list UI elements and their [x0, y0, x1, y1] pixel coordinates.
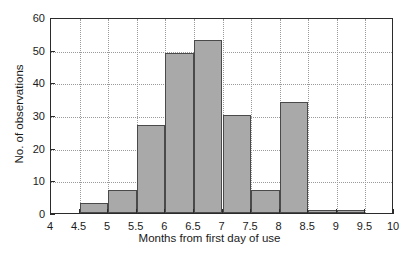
x-tick-mark-9	[336, 209, 337, 214]
y-tick-label-60: 60	[33, 13, 45, 24]
y-tick-mark-60	[50, 18, 55, 19]
y-tick-label-40: 40	[33, 78, 45, 89]
x-tick-label-6-5: 6.5	[185, 221, 200, 232]
x-tick-mark-4	[50, 209, 51, 214]
y-tick-mark-0	[50, 214, 55, 215]
x-tick-label-5-5: 5.5	[128, 221, 143, 232]
x-tick-label-7: 7	[218, 221, 224, 232]
y-tick-label-30: 30	[33, 111, 45, 122]
y-tick-mark-50	[50, 51, 55, 52]
x-tick-mark-8	[279, 209, 280, 214]
x-tick-label-5: 5	[104, 221, 110, 232]
bar-6.5-7	[194, 40, 223, 213]
x-tick-mark-8-5	[307, 209, 308, 214]
y-tick-label-20: 20	[33, 144, 45, 155]
y-tick-label-10: 10	[33, 176, 45, 187]
x-tick-mark-10	[393, 209, 394, 214]
bar-5.5-6	[137, 125, 166, 213]
x-tick-label-4: 4	[47, 221, 53, 232]
y-tick-label-50: 50	[33, 46, 45, 57]
x-tick-label-10: 10	[387, 221, 399, 232]
x-tick-mark-7-5	[250, 209, 251, 214]
x-tick-label-9-5: 9.5	[357, 221, 372, 232]
y-tick-label-0: 0	[39, 209, 45, 220]
x-tick-mark-4-5	[79, 209, 80, 214]
x-tick-label-4-5: 4.5	[71, 221, 86, 232]
bar-9-9.5	[337, 210, 366, 213]
x-axis-title: Months from first day of use	[0, 232, 419, 244]
x-tick-mark-6	[164, 209, 165, 214]
bar-8.5-9	[308, 210, 337, 213]
bar-6-6.5	[165, 53, 194, 213]
x-tick-mark-9-5	[364, 209, 365, 214]
y-tick-mark-20	[50, 149, 55, 150]
bar-4.5-5	[80, 203, 109, 213]
x-tick-label-6: 6	[161, 221, 167, 232]
y-tick-mark-10	[50, 181, 55, 182]
bar-7-7.5	[223, 115, 252, 213]
bar-7.5-8	[251, 190, 280, 213]
x-tick-mark-5-5	[136, 209, 137, 214]
y-tick-mark-30	[50, 116, 55, 117]
x-tick-label-8-5: 8.5	[300, 221, 315, 232]
y-axis-title: No. of observations	[13, 39, 25, 189]
x-tick-label-9: 9	[333, 221, 339, 232]
x-tick-label-8: 8	[276, 221, 282, 232]
histogram-chart: 0102030405060 44.555.566.577.588.599.510…	[0, 0, 419, 253]
x-tick-mark-6-5	[193, 209, 194, 214]
y-tick-mark-40	[50, 83, 55, 84]
x-tick-mark-5	[107, 209, 108, 214]
bar-series	[51, 19, 392, 213]
x-tick-mark-7	[222, 209, 223, 214]
bar-5-5.5	[108, 190, 137, 213]
x-tick-label-7-5: 7.5	[242, 221, 257, 232]
bar-8-8.5	[280, 102, 309, 213]
plot-area	[50, 18, 393, 214]
